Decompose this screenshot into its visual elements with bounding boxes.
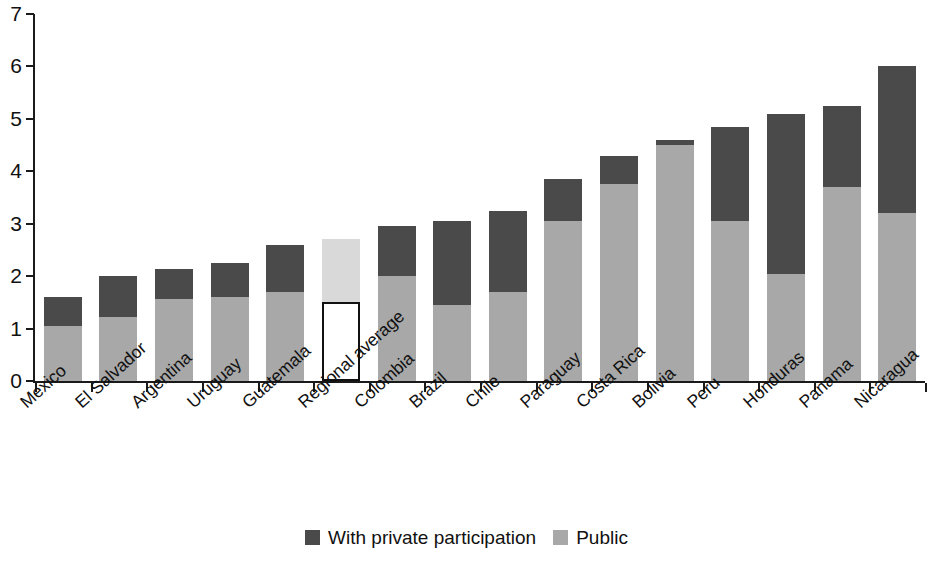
bar-paraguay[interactable] bbox=[544, 179, 582, 381]
segment-private-participation bbox=[878, 66, 916, 213]
segment-private-participation bbox=[711, 127, 749, 221]
x-tick-mark bbox=[925, 383, 927, 392]
segment-public bbox=[823, 187, 861, 381]
legend-label-private: With private participation bbox=[328, 528, 536, 547]
segment-private-participation bbox=[266, 245, 304, 292]
segment-private-participation bbox=[44, 297, 82, 326]
y-tick-mark bbox=[26, 118, 34, 120]
bar-peru[interactable] bbox=[711, 127, 749, 381]
bar-chile[interactable] bbox=[489, 211, 527, 381]
bar-panama[interactable] bbox=[823, 106, 861, 381]
legend-label-public: Public bbox=[576, 528, 628, 547]
segment-public bbox=[656, 145, 694, 381]
bar-honduras[interactable] bbox=[767, 114, 805, 381]
y-tick-label: 2 bbox=[0, 265, 22, 286]
segment-private-participation bbox=[767, 114, 805, 274]
segment-public bbox=[711, 221, 749, 381]
segment-private-participation bbox=[489, 211, 527, 292]
segment-private-participation bbox=[211, 263, 249, 297]
y-tick-mark bbox=[26, 65, 34, 67]
y-tick-mark bbox=[26, 13, 34, 15]
bar-bolivia[interactable] bbox=[656, 140, 694, 381]
segment-private-participation bbox=[99, 276, 137, 317]
y-tick-label: 0 bbox=[0, 370, 22, 391]
segment-public bbox=[489, 292, 527, 381]
segment-private-participation bbox=[378, 226, 416, 276]
segment-regional-average-private bbox=[322, 239, 360, 302]
segment-private-participation bbox=[544, 179, 582, 221]
bar-nicaragua[interactable] bbox=[878, 66, 916, 381]
y-tick-label: 4 bbox=[0, 160, 22, 181]
bar-brazil[interactable] bbox=[433, 221, 471, 381]
chart-legend: With private participation Public bbox=[0, 528, 933, 547]
segment-private-participation bbox=[823, 106, 861, 187]
private-swatch bbox=[305, 530, 320, 545]
legend-item-public[interactable]: Public bbox=[553, 528, 628, 547]
segment-private-participation bbox=[600, 156, 638, 185]
segment-private-participation bbox=[155, 269, 193, 298]
y-tick-label: 5 bbox=[0, 108, 22, 129]
y-tick-label: 3 bbox=[0, 213, 22, 234]
y-tick-label: 7 bbox=[0, 3, 22, 24]
y-tick-mark bbox=[26, 328, 34, 330]
y-tick-mark bbox=[26, 275, 34, 277]
bar-chart: 01234567 MexicoEl SalvadorArgentinaUrugu… bbox=[0, 0, 933, 563]
y-tick-label: 6 bbox=[0, 55, 22, 76]
legend-item-private[interactable]: With private participation bbox=[305, 528, 536, 547]
y-tick-mark bbox=[26, 170, 34, 172]
public-swatch bbox=[553, 530, 568, 545]
y-tick-mark bbox=[26, 223, 34, 225]
segment-private-participation bbox=[433, 221, 471, 305]
y-tick-label: 1 bbox=[0, 318, 22, 339]
